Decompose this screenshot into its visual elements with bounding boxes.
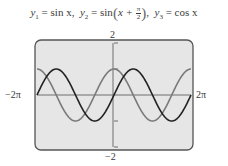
graphing-calculator-screen xyxy=(0,0,228,166)
x-max-label: 2π xyxy=(196,89,206,100)
y-min-label: −2 xyxy=(105,151,116,162)
x-min-label: −2π xyxy=(5,89,21,100)
y-max-label: 2 xyxy=(110,29,115,40)
